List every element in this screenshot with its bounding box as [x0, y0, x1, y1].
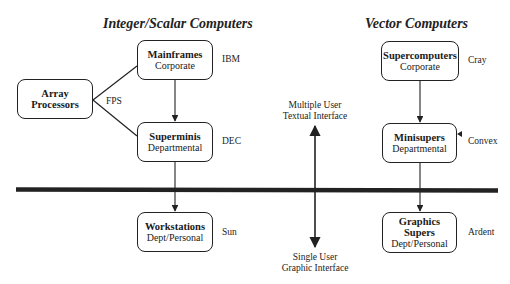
node-array-processors: Array Processors	[17, 79, 93, 119]
axis-top-line2: Textual Interface	[275, 111, 355, 122]
vendor-ibm: IBM	[222, 54, 240, 65]
node-workstations: Workstations Dept/Personal	[137, 212, 213, 252]
axis-label-top: Multiple User Textual Interface	[275, 100, 355, 122]
axis-top-line1: Multiple User	[275, 100, 355, 111]
node-scope: Dept/Personal	[147, 232, 204, 243]
node-name-line2: Processors	[31, 99, 79, 110]
node-supercomputers: Supercomputers Corporate	[381, 41, 459, 81]
divider-line	[16, 190, 498, 191]
node-mainframes: Mainframes Corporate	[137, 40, 213, 80]
node-scope: Departmental	[148, 142, 202, 153]
node-name: Workstations	[145, 221, 205, 232]
node-name-line2: Supers	[404, 227, 435, 238]
node-name: Mainframes	[148, 49, 203, 60]
diagram-canvas: Integer/Scalar Computers Vector Computer…	[0, 0, 510, 284]
title-integer-scalar: Integer/Scalar Computers	[103, 16, 253, 32]
vendor-convex: Convex	[468, 136, 498, 147]
vendor-sun: Sun	[222, 227, 237, 238]
vendor-ardent: Ardent	[468, 227, 494, 238]
vendor-fps: FPS	[106, 96, 122, 107]
convex-arrowhead	[457, 131, 462, 137]
vendor-cray: Cray	[468, 55, 486, 66]
node-name: Array	[41, 88, 68, 99]
node-minisupers: Minisupers Departmental	[382, 123, 457, 163]
node-scope: Corporate	[400, 61, 440, 72]
node-scope: Departmental	[392, 143, 446, 154]
title-vector: Vector Computers	[365, 16, 468, 32]
node-scope: Corporate	[155, 60, 195, 71]
connector-array-mainframes	[93, 66, 137, 100]
node-graphics-supers: Graphics Supers Dept/Personal	[382, 212, 457, 253]
axis-label-bottom: Single User Graphic Interface	[275, 252, 355, 274]
node-name: Superminis	[149, 131, 200, 142]
vendor-dec: DEC	[222, 136, 241, 147]
node-name: Graphics	[399, 216, 440, 227]
node-superminis: Superminis Departmental	[137, 122, 213, 162]
axis-bottom-line2: Graphic Interface	[275, 263, 355, 274]
node-name: Supercomputers	[383, 50, 457, 61]
node-scope: Dept/Personal	[391, 238, 448, 249]
axis-bottom-line1: Single User	[275, 252, 355, 263]
node-name: Minisupers	[394, 132, 445, 143]
